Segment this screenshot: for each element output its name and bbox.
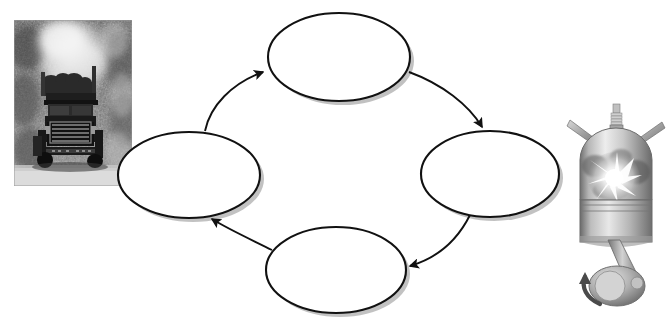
diagram-canvas (0, 0, 669, 322)
engine-piston-illustration (567, 104, 665, 306)
crankshaft (589, 266, 645, 306)
illustration-layer (0, 0, 669, 322)
